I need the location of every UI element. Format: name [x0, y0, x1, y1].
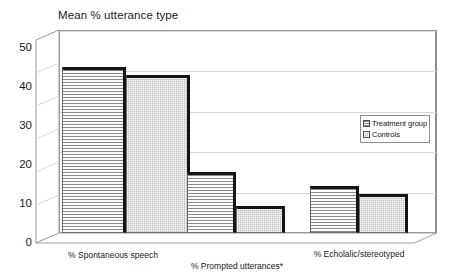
y-tick-40: 40	[6, 80, 32, 92]
legend: Treatment group Controls	[360, 115, 430, 143]
bar-treatment-prompted-utterances	[187, 172, 236, 233]
legend-item-treatment-group: Treatment group	[363, 119, 427, 129]
legend-item-controls: Controls	[363, 129, 427, 139]
y-tick-20: 20	[6, 158, 32, 170]
x-label-echolalic-stereotyped: % Echolalic/stereotyped	[314, 249, 405, 259]
bar-controls-echolalic-stereotyped	[359, 194, 408, 233]
gridline-50	[60, 31, 436, 32]
legend-label-controls: Controls	[372, 130, 400, 139]
bar-treatment-echolalic-stereotyped	[310, 186, 359, 233]
y-tick-30: 30	[6, 119, 32, 131]
bar-controls-spontaneous-speech	[126, 75, 190, 233]
x-label-spontaneous-speech: % Spontaneous speech	[68, 250, 158, 260]
y-tick-0: 0	[6, 236, 32, 248]
bar-treatment-spontaneous-speech	[62, 67, 126, 233]
y-tick-10: 10	[6, 197, 32, 209]
bar-chart: Mean % utterance type 50 40 30 20 10 0 %	[0, 0, 462, 274]
chart-title: Mean % utterance type	[58, 9, 178, 21]
bar-controls-prompted-utterances	[236, 206, 285, 233]
treatment-swatch-icon	[363, 120, 370, 127]
y-axis: 50 40 30 20 10 0	[0, 0, 32, 274]
controls-swatch-icon	[363, 131, 370, 138]
x-label-prompted-utterances: % Prompted utterances*	[191, 261, 283, 271]
legend-label-treatment-group: Treatment group	[372, 119, 427, 128]
y-tick-50: 50	[6, 41, 32, 53]
